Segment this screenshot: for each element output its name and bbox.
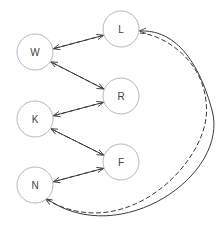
node-label: R (117, 91, 124, 102)
node-K: K (17, 101, 53, 137)
node-label: L (118, 24, 124, 35)
node-F: F (103, 144, 139, 180)
node-label: N (31, 180, 38, 191)
nodes-layer: LWRKFN (17, 11, 139, 203)
graph-diagram: LWRKFN (0, 0, 224, 239)
node-W: W (17, 34, 53, 70)
node-L: L (103, 11, 139, 47)
node-N: N (17, 167, 53, 203)
edges-layer (46, 31, 214, 216)
node-label: W (30, 47, 40, 58)
edge-L-to-N (46, 33, 207, 213)
node-label: F (118, 157, 124, 168)
edge-N-to-L (47, 31, 214, 216)
node-R: R (103, 78, 139, 114)
node-label: K (32, 114, 39, 125)
